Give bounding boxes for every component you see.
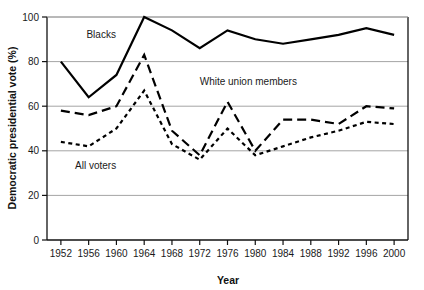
x-tick-label: 2000 [383,248,406,259]
x-tick-label: 1972 [189,248,212,259]
x-tick-label: 1956 [78,248,101,259]
x-tick-label: 1952 [50,248,73,259]
annotation-label: Blacks [86,29,115,40]
x-tick-label: 1968 [161,248,184,259]
x-tick-label: 1976 [216,248,239,259]
x-tick-label: 1996 [355,248,378,259]
annotation-label: White union members [200,76,297,87]
y-tick-label: 80 [28,56,40,67]
x-tick-label: 1960 [105,248,128,259]
line-chart: 1952195619601964196819721976198019841988… [0,0,424,290]
y-tick-label: 100 [22,12,39,23]
x-tick-label: 1992 [327,248,350,259]
chart-container: 1952195619601964196819721976198019841988… [0,0,424,290]
y-tick-label: 20 [28,190,40,201]
annotation-label: All voters [75,160,116,171]
x-axis-title: Year [217,274,239,286]
y-axis-title: Democratic presidential vote (%) [6,47,18,210]
y-tick-label: 60 [28,101,40,112]
x-tick-label: 1964 [133,248,156,259]
x-tick-label: 1988 [300,248,323,259]
x-tick-label: 1984 [272,248,295,259]
x-tick-label: 1980 [244,248,267,259]
y-tick-label: 40 [28,145,40,156]
y-tick-label: 0 [33,235,39,246]
